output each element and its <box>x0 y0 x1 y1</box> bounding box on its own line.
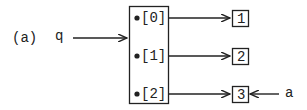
figure-label: (a) <box>12 31 37 45</box>
slot0-bullet <box>134 15 139 20</box>
target-1-label: 1 <box>237 12 245 26</box>
slot-0-label: [0] <box>141 11 166 25</box>
slot-1-label: [1] <box>141 49 166 63</box>
target-3-label: 3 <box>237 88 245 102</box>
slot2-bullet <box>134 91 139 96</box>
pointer-q-label: q <box>55 29 63 43</box>
slot1-bullet <box>134 53 139 58</box>
pointer-a-label: a <box>285 86 293 100</box>
slot-2-label: [2] <box>141 87 166 101</box>
target-2-label: 2 <box>237 50 245 64</box>
